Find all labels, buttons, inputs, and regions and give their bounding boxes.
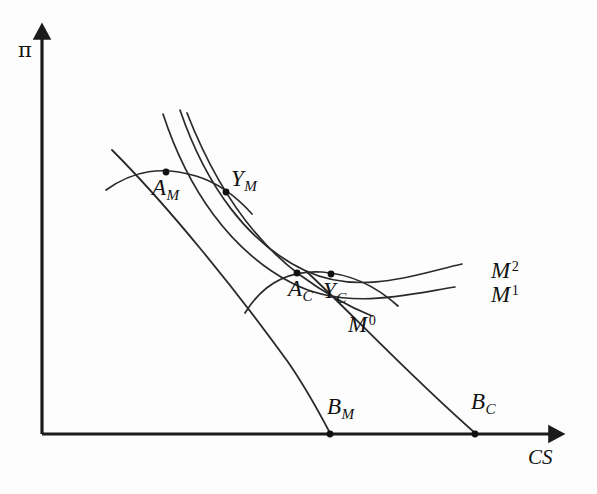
y-axis-label: π xyxy=(18,40,32,61)
point-label-ym-base: Y xyxy=(231,166,244,191)
curve-label-m2: M2 xyxy=(491,259,519,282)
point-label-bc: BC xyxy=(471,390,496,416)
curve-label-m0: M0 xyxy=(348,313,376,336)
point-label-am-sub: M xyxy=(166,186,179,203)
curve-frontier-competitive xyxy=(245,272,398,313)
point-label-yc: YC xyxy=(323,279,346,305)
plot-area xyxy=(0,0,597,494)
curve-label-m1-base: M xyxy=(491,282,510,307)
curve-m2 xyxy=(180,110,462,283)
curve-label-m0-sup: 0 xyxy=(367,312,376,328)
curve-m1 xyxy=(163,114,455,299)
point-label-ac-base: A xyxy=(288,276,302,301)
point-label-ym: YM xyxy=(231,167,257,193)
point-label-ac-sub: C xyxy=(302,287,313,304)
point-label-bm: BM xyxy=(327,395,354,421)
point-label-ac: AC xyxy=(288,277,313,303)
point-label-am: AM xyxy=(152,176,179,202)
point-marker-bc xyxy=(472,431,479,438)
point-label-am-base: A xyxy=(152,175,166,200)
point-label-yc-base: Y xyxy=(323,278,336,303)
curve-label-m0-base: M xyxy=(348,312,367,337)
curve-label-m1-sup: 1 xyxy=(510,282,519,298)
point-label-bm-sub: M xyxy=(341,405,354,422)
curve-label-m2-base: M xyxy=(491,258,510,283)
curve-label-m2-sup: 2 xyxy=(510,258,519,274)
point-marker-ym xyxy=(223,189,230,196)
figure-canvas: π CS AM YM AC YC BM BC M2 M1 M0 xyxy=(0,0,597,494)
point-label-bc-sub: C xyxy=(485,400,496,417)
point-label-ym-sub: M xyxy=(244,177,257,194)
point-marker-yc xyxy=(328,271,335,278)
point-label-bc-base: B xyxy=(471,389,485,414)
point-marker-bm xyxy=(327,431,334,438)
point-label-bm-base: B xyxy=(327,394,341,419)
x-axis-label: CS xyxy=(528,447,553,468)
point-label-yc-sub: C xyxy=(336,289,347,306)
curve-label-m1: M1 xyxy=(491,283,519,306)
